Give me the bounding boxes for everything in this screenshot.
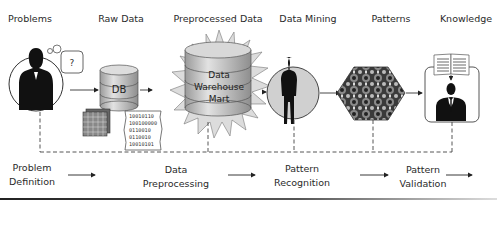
step-line-1: Pattern: [400, 163, 447, 177]
book-icon: [434, 54, 469, 75]
bottom-rule: [0, 198, 497, 200]
data-warehouse-icon: Data Warehouse Mart: [185, 42, 251, 116]
step-pattern-validation: Pattern Validation: [400, 163, 447, 191]
svg-text:Data: Data: [208, 70, 230, 80]
problem-person-icon: [9, 48, 63, 111]
binary-document-icon: 10010110 100100000 0110010 0110010 10010…: [124, 111, 162, 150]
svg-text:100100000: 100100000: [129, 120, 157, 126]
step-line-2: Preprocessing: [143, 177, 209, 191]
spreadsheet-icon: [83, 109, 110, 136]
pattern-mosaic-icon: [337, 67, 405, 120]
svg-text:10010110: 10010110: [129, 113, 154, 119]
svg-text:Mart: Mart: [209, 94, 230, 104]
step-pattern-recognition: Pattern Recognition: [274, 162, 330, 190]
knowledge-icon: [425, 54, 479, 122]
svg-text:Warehouse: Warehouse: [194, 82, 244, 92]
database-icon: DB: [100, 65, 138, 111]
svg-text:0110010: 0110010: [129, 134, 151, 140]
step-line-1: Data: [143, 163, 209, 177]
svg-text:10010101: 10010101: [129, 141, 154, 147]
svg-text:DB: DB: [112, 84, 127, 95]
step-problem-definition: Problem Definition: [9, 161, 55, 189]
step-line-2: Validation: [400, 177, 447, 191]
step-line-2: Definition: [9, 175, 55, 189]
step-data-preprocessing: Data Preprocessing: [143, 163, 209, 191]
data-miner-icon: [267, 57, 319, 124]
step-line-2: Recognition: [274, 176, 330, 190]
step-line-1: Pattern: [274, 162, 330, 176]
step-line-1: Problem: [9, 161, 55, 175]
question-mark: ?: [70, 58, 75, 68]
svg-text:0110010: 0110010: [129, 127, 151, 133]
